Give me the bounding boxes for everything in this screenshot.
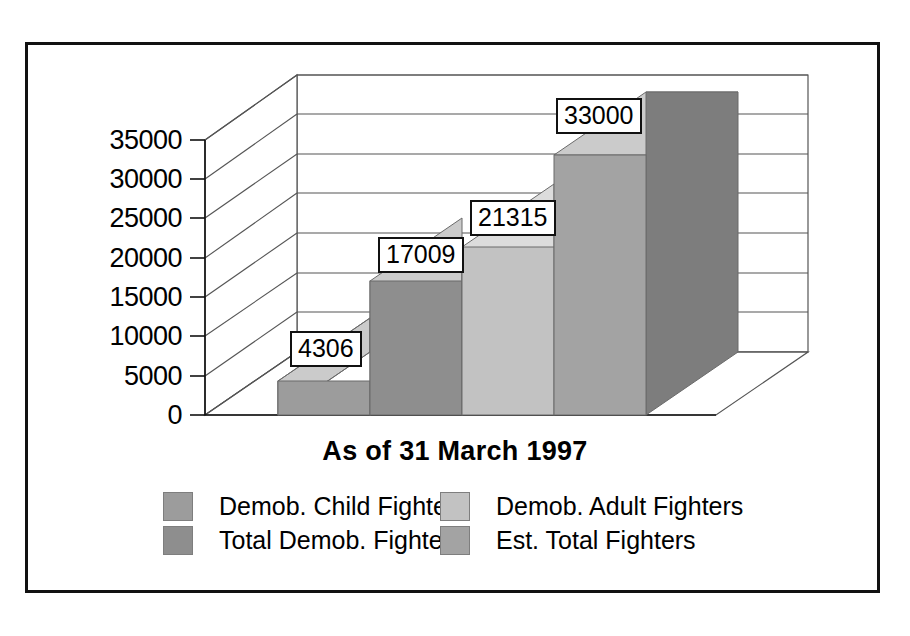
legend-swatch-icon [163, 526, 193, 555]
value-label-demob-adult-fighters: 21315 [470, 200, 556, 236]
legend-item-demob-adult-fighters[interactable]: Demob. Adult Fighters [440, 489, 743, 523]
ytick-label-5000: 5000 [90, 363, 182, 390]
ytick-label-10000: 10000 [90, 323, 182, 350]
value-label-est-total-fighters: 33000 [556, 98, 642, 134]
chart-3d-bar-chart: 35000 30000 25000 20000 15000 10000 5000… [0, 0, 910, 636]
legend-label: Demob. Adult Fighters [496, 494, 743, 519]
legend-label: Total Demob. Fighters [219, 528, 464, 553]
legend-label: Demob. Child Fighters [219, 494, 468, 519]
ytick-label-15000: 15000 [90, 284, 182, 311]
ytick-label-0: 0 [90, 402, 182, 429]
legend-item-demob-child-fighters[interactable]: Demob. Child Fighters [163, 489, 468, 523]
legend-item-est-total-fighters[interactable]: Est. Total Fighters [440, 523, 743, 557]
legend-swatch-icon [440, 526, 470, 555]
bar-est-total-fighters[interactable] [554, 92, 738, 415]
legend-column-left: Demob. Child Fighters Total Demob. Fight… [163, 489, 468, 557]
legend-column-right: Demob. Adult Fighters Est. Total Fighter… [440, 489, 743, 557]
value-label-total-demob-fighters: 17009 [378, 237, 464, 273]
legend-item-total-demob-fighters[interactable]: Total Demob. Fighters [163, 523, 468, 557]
ytick-label-30000: 30000 [90, 166, 182, 193]
chart-title: As of 31 March 1997 [0, 436, 910, 467]
value-label-demob-child-fighters: 4306 [290, 331, 362, 367]
legend-swatch-icon [440, 492, 470, 521]
legend-swatch-icon [163, 492, 193, 521]
legend-label: Est. Total Fighters [496, 528, 696, 553]
ytick-label-25000: 25000 [90, 205, 182, 232]
ytick-label-35000: 35000 [90, 127, 182, 154]
ytick-label-20000: 20000 [90, 245, 182, 272]
